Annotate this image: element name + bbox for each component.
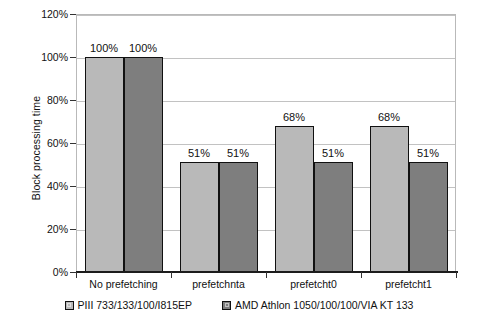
bar <box>85 57 124 272</box>
bar <box>370 126 409 272</box>
x-tick-label: prefetcht0 <box>290 278 337 290</box>
y-tick-label: 0% <box>24 266 68 278</box>
legend-swatch-icon <box>65 301 74 310</box>
y-tick-label: 20% <box>24 223 68 235</box>
y-tick-label: 40% <box>24 180 68 192</box>
bar-chart: Block processing time 0%20%40%60%80%100%… <box>0 0 478 324</box>
bar-value-label: 51% <box>227 147 249 159</box>
bar-value-label: 68% <box>378 111 400 123</box>
legend-swatch-icon <box>222 301 231 310</box>
y-tick-label: 120% <box>24 8 68 20</box>
legend-item: AMD Athlon 1050/100/100/VIA KT 133 <box>222 299 413 311</box>
y-tick-label: 80% <box>24 94 68 106</box>
bar-value-label: 51% <box>322 147 344 159</box>
bar <box>275 126 314 272</box>
x-tick-mark <box>456 272 457 278</box>
x-tick-mark <box>171 272 172 278</box>
y-tick-label: 60% <box>24 137 68 149</box>
legend-item: PIII 733/133/100/I815EP <box>65 299 192 311</box>
x-tick-label: prefetchnta <box>192 278 245 290</box>
bar-value-label: 68% <box>283 111 305 123</box>
bar-value-label: 100% <box>129 42 157 54</box>
bar <box>314 162 353 272</box>
bar-value-label: 51% <box>188 147 210 159</box>
x-tick-label: No prefetching <box>89 278 157 290</box>
bar <box>409 162 448 272</box>
bar-value-label: 51% <box>417 147 439 159</box>
bar <box>180 162 219 272</box>
x-tick-mark <box>361 272 362 278</box>
bar <box>124 57 163 272</box>
x-tick-label: prefetcht1 <box>385 278 432 290</box>
x-axis-line <box>76 271 458 273</box>
legend-label: AMD Athlon 1050/100/100/VIA KT 133 <box>235 299 413 311</box>
legend-label: PIII 733/133/100/I815EP <box>78 299 192 311</box>
bars-layer: 100%100%51%51%68%51%68%51% <box>76 14 456 272</box>
legend: PIII 733/133/100/I815EPAMD Athlon 1050/1… <box>0 299 478 311</box>
y-tick-label: 100% <box>24 51 68 63</box>
bar-value-label: 100% <box>90 42 118 54</box>
bar <box>219 162 258 272</box>
x-tick-mark <box>76 272 77 278</box>
x-tick-mark <box>266 272 267 278</box>
